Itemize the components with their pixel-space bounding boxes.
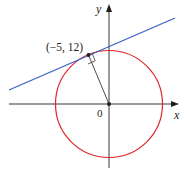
x-axis-label: x xyxy=(173,108,180,122)
y-axis-label: y xyxy=(95,2,102,16)
origin-label: 0 xyxy=(97,107,103,119)
origin-point xyxy=(107,102,111,106)
tangent-point xyxy=(87,53,91,57)
y-axis xyxy=(106,4,112,168)
x-axis-arrow-icon xyxy=(171,101,179,107)
point-label: (−5, 12) xyxy=(46,41,83,54)
x-axis xyxy=(9,101,179,107)
y-axis-arrow-icon xyxy=(106,4,112,12)
tangent-circle-diagram: (−5, 12) 0 x y xyxy=(0,0,184,171)
